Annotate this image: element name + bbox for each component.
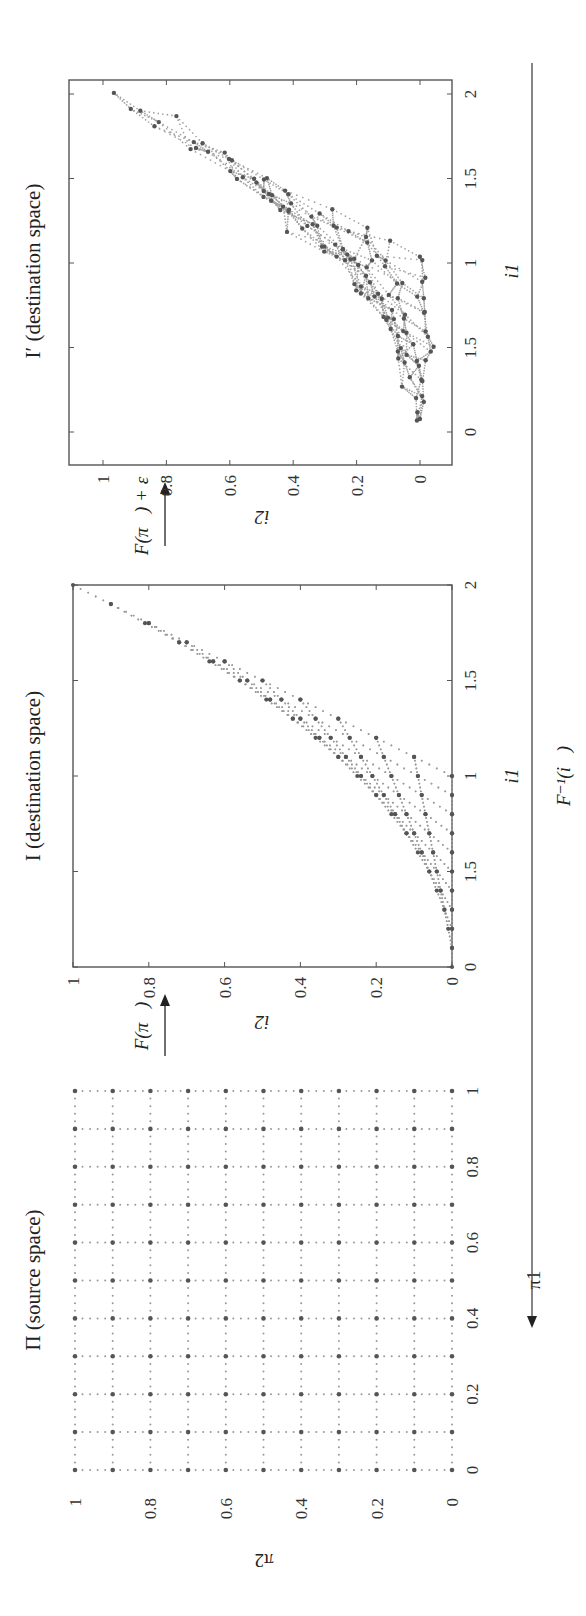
data-point — [408, 273, 410, 275]
data-point — [186, 1354, 191, 1359]
data-point — [347, 764, 349, 766]
x-tick-label: 0 — [461, 428, 480, 437]
x-tick-label: 1.5 — [461, 861, 480, 882]
data-point — [74, 1105, 76, 1107]
data-point — [374, 779, 376, 781]
data-point — [309, 222, 311, 224]
data-point — [263, 1226, 265, 1228]
data-point — [104, 1355, 106, 1357]
data-point — [149, 1120, 151, 1122]
data-point — [368, 1204, 370, 1206]
data-point — [413, 1363, 415, 1365]
data-point — [265, 193, 267, 195]
data-point — [307, 221, 309, 223]
data-point — [263, 1234, 265, 1236]
data-point — [300, 1408, 302, 1410]
data-point — [285, 1355, 287, 1357]
data-point — [376, 1151, 378, 1153]
data-point — [338, 235, 340, 237]
noisy-plot-frame — [69, 80, 452, 465]
data-point — [362, 265, 364, 267]
data-point — [405, 351, 407, 353]
data-point — [421, 309, 423, 311]
data-point — [450, 927, 454, 931]
data-point — [242, 676, 244, 678]
data-point — [394, 306, 396, 308]
data-point — [383, 312, 385, 314]
data-point — [74, 1272, 76, 1274]
data-point — [225, 1363, 227, 1365]
data-point — [255, 1242, 257, 1244]
data-point — [415, 764, 417, 766]
data-point — [206, 150, 210, 154]
data-point — [119, 1280, 121, 1282]
data-point — [341, 243, 343, 245]
data-point — [263, 1439, 265, 1441]
data-point — [421, 407, 423, 409]
data-point — [323, 1280, 325, 1282]
data-point — [417, 393, 419, 395]
data-point — [451, 1310, 453, 1312]
data-point — [321, 725, 323, 727]
data-point — [263, 1461, 265, 1463]
data-point — [409, 341, 411, 343]
data-point — [357, 282, 359, 284]
data-point — [263, 1136, 265, 1138]
data-point — [82, 1431, 84, 1433]
data-point — [388, 325, 390, 327]
data-point — [403, 338, 405, 340]
data-point — [130, 103, 132, 105]
data-point — [419, 787, 421, 789]
data-point — [273, 197, 275, 199]
data-point — [372, 294, 376, 298]
data-point — [300, 1211, 302, 1213]
data-point — [263, 1151, 265, 1153]
data-point — [372, 764, 374, 766]
data-point — [271, 703, 273, 705]
data-point — [418, 386, 420, 388]
data-point — [419, 384, 421, 386]
data-point — [112, 1386, 114, 1388]
data-point — [367, 768, 369, 770]
data-point — [112, 1371, 114, 1373]
data-point — [421, 1317, 423, 1319]
data-point — [295, 198, 297, 200]
data-point — [112, 1416, 114, 1418]
data-point — [285, 222, 287, 224]
data-point — [337, 1316, 342, 1321]
data-point — [231, 664, 233, 666]
data-point — [323, 1090, 325, 1092]
data-point — [451, 1333, 453, 1335]
data-point — [74, 1325, 76, 1327]
data-point — [451, 836, 453, 838]
data-point — [225, 1151, 227, 1153]
data-point — [444, 897, 446, 899]
data-point — [376, 1173, 378, 1175]
data-point — [403, 806, 405, 808]
data-point — [296, 221, 298, 223]
data-point — [270, 1469, 272, 1471]
data-point — [263, 1446, 265, 1448]
data-point — [73, 1165, 78, 1170]
data-point — [415, 374, 417, 376]
data-point — [148, 1316, 153, 1321]
data-point — [285, 1166, 287, 1168]
data-point — [396, 326, 398, 328]
data-point — [361, 1242, 363, 1244]
data-point — [73, 1354, 78, 1359]
data-point — [183, 132, 185, 134]
data-point — [278, 706, 280, 708]
data-point — [223, 659, 227, 663]
data-point — [262, 189, 266, 193]
data-point — [210, 159, 212, 161]
data-point — [451, 790, 453, 792]
data-point — [303, 725, 305, 727]
data-point — [192, 140, 196, 144]
data-point — [314, 217, 316, 219]
data-point — [380, 254, 382, 256]
data-point — [408, 373, 410, 375]
data-point — [322, 741, 324, 743]
data-point — [421, 264, 423, 266]
data-point — [406, 388, 408, 390]
data-point — [451, 844, 453, 846]
